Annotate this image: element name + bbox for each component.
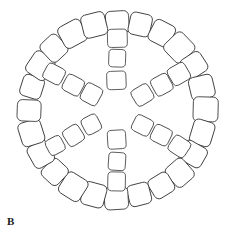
spoke-down-tile bbox=[107, 130, 126, 150]
radial-tile-wheel-diagram bbox=[0, 0, 239, 249]
spoke-up-tile bbox=[108, 49, 125, 67]
outer-ring-tile bbox=[80, 11, 109, 40]
spoke-up-tile bbox=[106, 71, 126, 90]
panel-label: B bbox=[7, 215, 14, 227]
outer-ring-tile bbox=[126, 181, 153, 208]
spoke-down-tile bbox=[108, 152, 126, 171]
spoke-lower-left-tile bbox=[80, 113, 103, 137]
spoke-up-tile bbox=[107, 29, 127, 48]
spoke-down-tile bbox=[108, 172, 126, 191]
outer-ring-tile bbox=[193, 97, 219, 122]
figure-panel-b: B bbox=[0, 0, 239, 249]
outer-ring-tile bbox=[17, 99, 42, 121]
